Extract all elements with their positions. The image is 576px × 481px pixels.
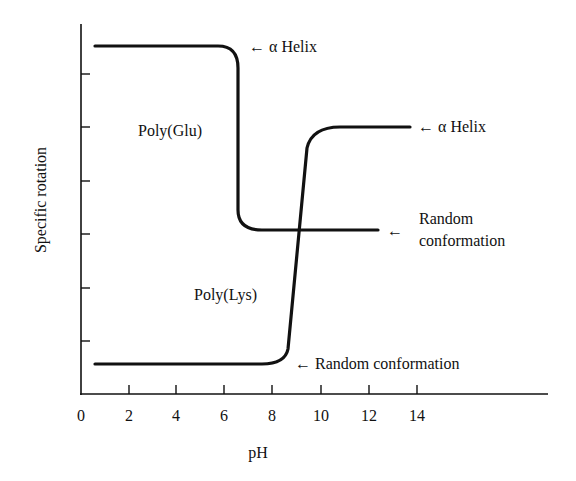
x-ticks [129, 385, 417, 394]
x-tick-label: 10 [313, 407, 329, 424]
x-tick-label: 0 [77, 407, 85, 424]
lys-curve-label: Poly(Lys) [194, 286, 257, 304]
glu-random-arrow: ← [387, 222, 403, 239]
glu-random-label-line1: Random [419, 210, 474, 227]
x-tick-label: 14 [409, 407, 425, 424]
y-axis-title: Specific rotation [32, 147, 50, 253]
glu-curve-label: Poly(Glu) [138, 122, 202, 140]
x-tick-label: 2 [125, 407, 133, 424]
chart: 0 2 4 6 8 10 12 14 pH Specific rotation … [0, 0, 576, 481]
lys-helix-label: ← α Helix [418, 118, 486, 135]
x-tick-label: 8 [268, 407, 276, 424]
x-tick-labels: 0 2 4 6 8 10 12 14 [77, 407, 425, 424]
lys-random-label: ← Random conformation [295, 355, 459, 372]
poly-lys-curve [95, 127, 410, 364]
axes [80, 24, 548, 395]
x-axis-title: pH [248, 444, 268, 462]
x-tick-label: 12 [361, 407, 377, 424]
y-ticks [81, 74, 90, 341]
x-tick-label: 4 [172, 407, 180, 424]
glu-helix-label: ← α Helix [249, 38, 317, 55]
x-tick-label: 6 [220, 407, 228, 424]
glu-random-label-line2: conformation [419, 232, 505, 249]
